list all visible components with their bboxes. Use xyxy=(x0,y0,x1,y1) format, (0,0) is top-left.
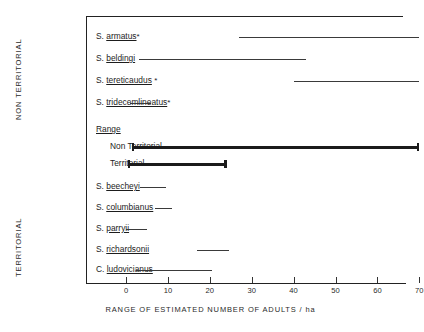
x-axis-tick xyxy=(210,277,211,283)
range-bar-c-ludovicianus xyxy=(136,270,211,271)
species-name: armatus xyxy=(106,31,136,41)
genus-abbrev: S. xyxy=(96,181,104,191)
species-name: tridecemlineatus xyxy=(106,97,167,107)
row-label-s-parryii: S. parryii xyxy=(96,223,129,233)
row-c-ludovicianus: C. ludovicianus xyxy=(0,264,421,278)
genus-abbrev: C. xyxy=(96,264,104,274)
x-axis-tick-label: 20 xyxy=(206,286,214,295)
range-bar-territorial xyxy=(128,163,226,166)
range-bar-s-tridecemlineatus xyxy=(130,103,151,104)
species-name: beecheyi xyxy=(106,181,140,191)
row-s-tereticaudus: S. tereticaudus * xyxy=(0,75,421,89)
range-bar-s-beecheyi xyxy=(140,187,166,188)
species-name: ludovicianus xyxy=(107,264,153,274)
row-s-columbianus: S. columbianus xyxy=(0,202,421,216)
range-row-territorial: Territorial xyxy=(0,158,421,172)
species-name: columbianus xyxy=(106,202,153,212)
x-axis-line xyxy=(86,283,406,284)
x-axis-tick xyxy=(168,277,169,283)
x-axis-tick xyxy=(377,277,378,283)
row-s-tridecemlineatus: S. tridecemlineatus* xyxy=(0,97,421,111)
row-s-richardsonii: S. richardsonii xyxy=(0,244,421,258)
row-s-beecheyi: S. beecheyi xyxy=(0,181,421,195)
genus-abbrev: S. xyxy=(96,75,104,85)
range-bar-s-beldingi xyxy=(139,59,307,60)
row-label-s-armatus: S. armatus* xyxy=(96,31,140,41)
genus-abbrev: S. xyxy=(96,31,104,41)
x-axis-tick-label: 60 xyxy=(373,286,381,295)
range-row-non-territorial: Non Territorial xyxy=(0,141,421,155)
genus-abbrev: S. xyxy=(96,202,104,212)
footnote-star: * xyxy=(167,98,170,107)
range-bar-s-richardsonii xyxy=(197,250,228,251)
row-s-parryii: S. parryii xyxy=(0,223,421,237)
row-label-s-tereticaudus: S. tereticaudus * xyxy=(96,75,157,85)
row-label-s-columbianus: S. columbianus xyxy=(96,202,153,212)
genus-abbrev: S. xyxy=(96,223,104,233)
x-axis-tick-label: 30 xyxy=(247,286,255,295)
x-axis-tick-label: 70 xyxy=(415,286,423,295)
footnote-star: * xyxy=(154,76,157,85)
range-bar-s-armatus xyxy=(239,37,419,38)
x-axis-tick xyxy=(336,277,337,283)
x-axis-tick xyxy=(419,277,420,283)
genus-abbrev: S. xyxy=(96,97,104,107)
range-block-heading-row: Range xyxy=(0,124,421,138)
row-label-c-ludovicianus: C. ludovicianus xyxy=(96,264,153,274)
x-axis-tick-label: 50 xyxy=(331,286,339,295)
range-bar-s-parryii xyxy=(126,229,147,230)
x-axis-tick xyxy=(252,277,253,283)
x-axis-tick-label: 0 xyxy=(124,286,128,295)
range-bar-non-territorial xyxy=(132,146,419,149)
range-bar-s-tereticaudus xyxy=(294,81,420,82)
footnote-star: * xyxy=(137,32,140,41)
genus-abbrev: S. xyxy=(96,53,104,63)
range-heading: Range xyxy=(96,124,121,134)
row-label-s-beldingi: S. beldingi xyxy=(96,53,135,63)
row-s-beldingi: S. beldingi xyxy=(0,53,421,67)
x-axis-title: RANGE OF ESTIMATED NUMBER OF ADULTS / ha xyxy=(0,305,421,314)
row-label-s-tridecemlineatus: S. tridecemlineatus* xyxy=(96,97,170,107)
row-s-armatus: S. armatus* xyxy=(0,31,421,45)
species-name: parryii xyxy=(106,223,129,233)
genus-abbrev: S. xyxy=(96,244,104,254)
x-axis-tick-label: 10 xyxy=(164,286,172,295)
species-name: richardsonii xyxy=(106,244,149,254)
species-name: tereticaudus xyxy=(106,75,152,85)
x-axis-tick-label: 40 xyxy=(289,286,297,295)
row-label-s-richardsonii: S. richardsonii xyxy=(96,244,149,254)
x-axis-tick xyxy=(294,277,295,283)
range-bar-s-columbianus xyxy=(155,208,172,209)
x-axis-tick xyxy=(126,277,127,283)
species-name: beldingi xyxy=(106,53,135,63)
row-label-s-beecheyi: S. beecheyi xyxy=(96,181,140,191)
